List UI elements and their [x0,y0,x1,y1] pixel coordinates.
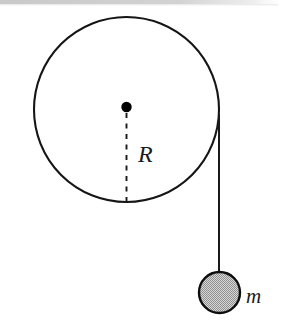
diagram-canvas: R m [0,0,289,334]
page-edge-band [0,0,289,4]
pulley-diagram-figure: R m [0,0,289,334]
radius-label: R [137,141,153,167]
mass-label: m [246,284,261,308]
hanging-mass-ball [199,272,240,313]
pulley-center-dot [121,102,131,112]
page-edge-band-shadow [0,4,278,5]
